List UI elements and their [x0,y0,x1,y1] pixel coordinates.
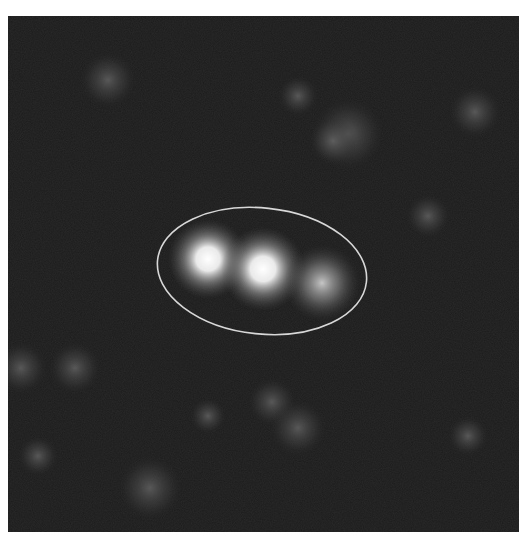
micrograph: grayscale fluorescence micrograph [8,16,519,532]
micrograph-canvas [8,16,519,532]
bright-spot-3 [284,245,360,321]
